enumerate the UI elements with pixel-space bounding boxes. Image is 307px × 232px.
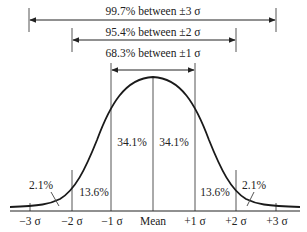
axis-label-minus-2-sigma: −2 σ [61, 215, 83, 227]
range-2-sigma-label: 95.4% between ±2 σ [106, 26, 202, 38]
sigma-lines [30, 77, 276, 211]
left-mid-percent: 13.6% [79, 186, 109, 198]
left-center-percent: 34.1% [117, 136, 147, 148]
x-axis-labels: −3 σ −2 σ −1 σ Mean +1 σ +2 σ +3 σ [19, 215, 288, 227]
axis-label-minus-1-sigma: −1 σ [101, 215, 123, 227]
right-tail-percent: 2.1% [242, 179, 266, 191]
axis-label-plus-1-sigma: +1 σ [184, 215, 206, 227]
normal-distribution-diagram: 99.7% between ±3 σ 95.4% between ±2 σ 68… [0, 0, 307, 232]
right-center-percent: 34.1% [159, 136, 189, 148]
left-tail-percent: 2.1% [29, 179, 53, 191]
axis-label-minus-3-sigma: −3 σ [19, 215, 41, 227]
range-3-sigma-label: 99.7% between ±3 σ [106, 5, 202, 17]
left-tail-pointer [51, 192, 59, 206]
range-1-sigma-label: 68.3% between ±1 σ [106, 47, 202, 59]
axis-label-plus-2-sigma: +2 σ [225, 215, 247, 227]
right-mid-percent: 13.6% [200, 186, 230, 198]
axis-label-mean: Mean [140, 215, 166, 227]
axis-label-plus-3-sigma: +3 σ [266, 215, 288, 227]
